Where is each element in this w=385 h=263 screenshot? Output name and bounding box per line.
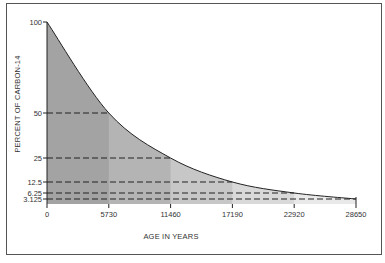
y-axis-title: PERCENT OF CARBON-14	[13, 55, 22, 152]
y-tick-label: 50	[34, 109, 42, 118]
x-tick-label: 28650	[346, 210, 367, 219]
carbon14-decay-chart: 100502512.56.253.125 0573011460171902292…	[0, 0, 385, 263]
shaded-band	[232, 15, 294, 204]
y-axis-ticks: 100502512.56.253.125	[23, 18, 47, 204]
shaded-band	[47, 15, 109, 204]
shaded-band	[109, 15, 171, 204]
x-tick-label: 5730	[100, 210, 117, 219]
x-tick-label: 17190	[222, 210, 243, 219]
shaded-band	[294, 15, 356, 204]
x-tick-label: 22920	[284, 210, 305, 219]
x-tick-label: 0	[45, 210, 49, 219]
y-tick-label: 100	[29, 18, 42, 27]
y-tick-label: 25	[34, 154, 42, 163]
x-tick-label: 11460	[160, 210, 180, 219]
y-tick-label: 12.5	[27, 178, 42, 187]
x-axis-title: AGE IN YEARS	[143, 232, 198, 241]
shaded-area-bands	[47, 15, 357, 204]
shaded-band	[171, 15, 233, 204]
y-tick-label: 3.125	[23, 195, 42, 204]
